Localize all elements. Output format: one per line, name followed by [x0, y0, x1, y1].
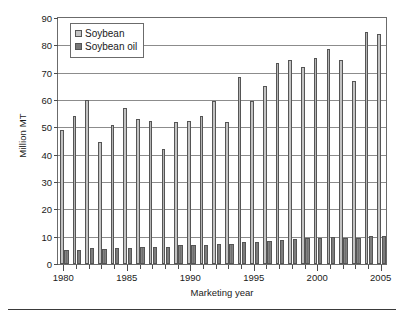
legend-item-soybean: Soybean — [75, 27, 137, 40]
x-tick-mark — [152, 265, 153, 269]
bar-soybean-oil — [293, 239, 297, 264]
bar-soybean-oil — [140, 247, 144, 264]
bottom-divider — [8, 309, 396, 310]
y-tick-label: 90 — [24, 13, 58, 24]
x-tick-mark — [241, 265, 242, 269]
y-tick-label: 30 — [24, 177, 58, 188]
bar-soybean — [352, 81, 356, 264]
bar-soybean-oil — [305, 238, 309, 264]
bar-soybean — [123, 108, 127, 264]
bar-group — [210, 18, 223, 264]
chart-figure: Million MT 0102030405060708090 Soybean S… — [0, 0, 404, 317]
bar-soybean — [365, 32, 369, 264]
bar-soybean-oil — [343, 238, 347, 265]
bar-group — [299, 18, 312, 264]
x-tick-mark — [343, 265, 344, 269]
bar-soybean-oil — [191, 245, 195, 264]
x-tick-mark — [89, 265, 90, 269]
bar-group — [261, 18, 274, 264]
bar-soybean — [339, 60, 343, 264]
x-tick-mark — [368, 265, 369, 269]
bar-soybean — [162, 149, 166, 264]
plot-area: 0102030405060708090 Soybean Soybean oil — [57, 17, 387, 265]
x-tick-mark — [216, 265, 217, 269]
x-tick-label: 1995 — [243, 272, 264, 283]
bar-soybean-oil — [382, 236, 386, 264]
bar-soybean-oil — [255, 242, 259, 264]
x-tick-mark — [381, 265, 382, 271]
x-tick-label: 2005 — [370, 272, 391, 283]
bar-group — [223, 18, 236, 264]
bar-soybean-oil — [369, 236, 373, 264]
x-tick-mark — [203, 265, 204, 269]
bar-soybean — [111, 125, 115, 264]
x-tick-mark — [190, 265, 191, 271]
bar-soybean-oil — [217, 244, 221, 264]
bar-soybean — [60, 130, 64, 264]
bar-soybean-oil — [267, 241, 271, 265]
x-tick-mark — [76, 265, 77, 269]
legend-label-soybean: Soybean — [85, 28, 124, 39]
bar-soybean — [136, 119, 140, 264]
bar-soybean — [250, 101, 254, 264]
y-tick-label: 80 — [24, 40, 58, 51]
bar-group — [363, 18, 376, 264]
bar-group — [160, 18, 173, 264]
bar-soybean — [174, 122, 178, 264]
x-tick-label: 2000 — [307, 272, 328, 283]
x-tick-mark — [317, 265, 318, 271]
bar-soybean-oil — [331, 237, 335, 264]
x-tick-mark — [101, 265, 102, 269]
bar-soybean-oil — [242, 242, 246, 264]
bar-group — [198, 18, 211, 264]
y-tick-label: 60 — [24, 95, 58, 106]
bar-soybean — [377, 34, 381, 264]
bar-group — [248, 18, 261, 264]
bar-soybean-oil — [128, 248, 132, 264]
x-tick-mark — [63, 265, 64, 271]
bar-soybean-oil — [77, 250, 81, 264]
legend-label-soybean-oil: Soybean oil — [85, 41, 137, 52]
y-tick-label: 50 — [24, 122, 58, 133]
bar-soybean — [263, 86, 267, 264]
bar-soybean — [225, 122, 229, 264]
bar-soybean-oil — [64, 250, 68, 264]
bar-group — [172, 18, 185, 264]
x-tick-label: 1990 — [180, 272, 201, 283]
bar-group — [147, 18, 160, 264]
y-tick-label: 0 — [24, 259, 58, 270]
bar-soybean-oil — [178, 245, 182, 264]
x-tick-mark — [178, 265, 179, 269]
bar-soybean — [200, 116, 204, 264]
bar-group — [185, 18, 198, 264]
bar-soybean-oil — [166, 247, 170, 264]
bar-group — [286, 18, 299, 264]
bar-soybean — [238, 77, 242, 264]
y-tick-label: 20 — [24, 204, 58, 215]
bar-soybean-oil — [90, 248, 94, 264]
bar-soybean — [187, 121, 191, 265]
bar-soybean — [327, 49, 331, 264]
legend-swatch-soybean-icon — [75, 30, 82, 37]
bar-soybean-oil — [280, 240, 284, 264]
legend-item-soybean-oil: Soybean oil — [75, 40, 137, 53]
bar-soybean — [301, 67, 305, 264]
bar-soybean-oil — [356, 238, 360, 264]
x-tick-mark — [279, 265, 280, 269]
x-tick-mark — [292, 265, 293, 269]
x-tick-mark — [330, 265, 331, 269]
bar-soybean — [212, 101, 216, 264]
x-axis-ticks: 198019851990199520002005 — [57, 265, 387, 287]
bar-soybean — [314, 58, 318, 264]
bar-soybean — [288, 60, 292, 264]
x-tick-mark — [266, 265, 267, 269]
bar-soybean-oil — [229, 244, 233, 265]
bar-group — [350, 18, 363, 264]
bar-group — [337, 18, 350, 264]
legend-swatch-soybean-oil-icon — [75, 43, 82, 50]
bar-soybean-oil — [153, 247, 157, 264]
bar-soybean — [85, 100, 89, 264]
bar-group — [236, 18, 249, 264]
y-tick-label: 40 — [24, 149, 58, 160]
bar-group — [274, 18, 287, 264]
